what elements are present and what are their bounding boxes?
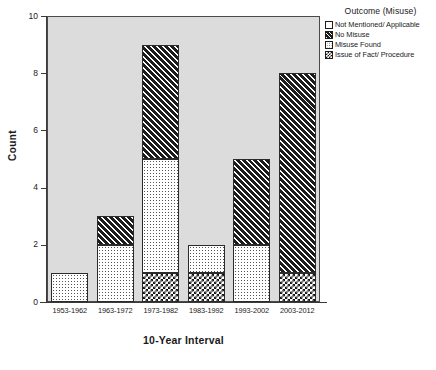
y-tick-label: 6 bbox=[0, 126, 38, 135]
figure-container: Count 10-Year Interval 0246810 1953-1962… bbox=[0, 0, 436, 370]
legend-item-label: Misuse Found bbox=[335, 40, 381, 50]
x-tick-label: 2003-2012 bbox=[269, 306, 325, 315]
y-tick-label: 10 bbox=[0, 12, 38, 21]
y-tick-mark bbox=[41, 16, 46, 17]
y-tick-mark bbox=[41, 188, 46, 189]
y-tick-mark bbox=[41, 130, 46, 131]
bar-segment[interactable] bbox=[188, 273, 225, 302]
legend: Outcome (Misuse) Not Mentioned/ Applicab… bbox=[325, 6, 436, 60]
bar-segment[interactable] bbox=[97, 216, 134, 245]
legend-item-label: Not Mentioned/ Applicable bbox=[335, 20, 420, 30]
bar-series-group bbox=[47, 16, 320, 302]
figure-caption bbox=[8, 357, 428, 369]
legend-items: Not Mentioned/ ApplicableNo MisuseMisuse… bbox=[325, 20, 436, 60]
x-axis-title: 10-Year Interval bbox=[47, 334, 320, 346]
legend-swatch-hatch bbox=[325, 31, 333, 39]
bar-segment[interactable] bbox=[188, 245, 225, 274]
y-tick-mark bbox=[41, 245, 46, 246]
legend-item[interactable]: No Misuse bbox=[325, 30, 436, 40]
legend-swatch-dots bbox=[325, 41, 333, 49]
bar-segment[interactable] bbox=[279, 273, 316, 302]
legend-item-label: Issue of Fact/ Procedure bbox=[335, 50, 414, 60]
y-tick-label: 2 bbox=[0, 240, 38, 249]
x-axis-line bbox=[40, 302, 327, 303]
legend-item[interactable]: Issue of Fact/ Procedure bbox=[325, 50, 436, 60]
bar-segment[interactable] bbox=[142, 273, 179, 302]
bar-segment[interactable] bbox=[233, 159, 270, 245]
bar-segment[interactable] bbox=[142, 45, 179, 159]
y-tick-mark bbox=[41, 73, 46, 74]
legend-item-label: No Misuse bbox=[335, 30, 369, 40]
y-tick-label: 4 bbox=[0, 183, 38, 192]
y-tick-label: 8 bbox=[0, 69, 38, 78]
legend-swatch-blank bbox=[325, 21, 333, 29]
bar-segment[interactable] bbox=[51, 273, 88, 302]
legend-swatch-check bbox=[325, 51, 333, 59]
bar-segment[interactable] bbox=[97, 245, 134, 302]
bar-segment[interactable] bbox=[142, 159, 179, 273]
legend-title: Outcome (Misuse) bbox=[325, 6, 436, 16]
y-axis-title: Count bbox=[7, 106, 18, 186]
y-tick-label: 0 bbox=[0, 298, 38, 307]
y-tick-mark bbox=[41, 302, 46, 303]
bar-segment[interactable] bbox=[279, 73, 316, 273]
legend-item[interactable]: Not Mentioned/ Applicable bbox=[325, 20, 436, 30]
bar-segment[interactable] bbox=[233, 245, 270, 302]
legend-item[interactable]: Misuse Found bbox=[325, 40, 436, 50]
